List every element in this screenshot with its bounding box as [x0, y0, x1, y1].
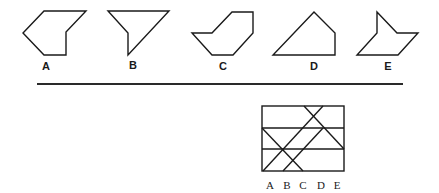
grid-figure: A B C D E	[262, 106, 344, 191]
grid-label-d: D	[317, 179, 325, 191]
grid-labels: A B C D E	[266, 179, 341, 191]
label-e: E	[384, 60, 391, 72]
option-b[interactable]: B	[108, 11, 169, 71]
shape-d	[273, 12, 335, 55]
label-a: A	[42, 60, 50, 72]
label-d: D	[310, 60, 318, 72]
option-c[interactable]: C	[192, 12, 253, 72]
label-b: B	[129, 59, 137, 71]
grid-label-e: E	[334, 179, 341, 191]
option-d[interactable]: D	[273, 12, 335, 72]
answer-options: A B C D E	[23, 11, 418, 72]
grid-border	[262, 106, 344, 171]
option-e[interactable]: E	[357, 12, 418, 72]
shape-b	[108, 11, 169, 55]
puzzle-diagram: A B C D E A B C D E	[0, 0, 439, 193]
shape-e	[357, 12, 418, 55]
grid-label-c: C	[299, 179, 306, 191]
option-a[interactable]: A	[23, 11, 86, 72]
grid-label-b: B	[283, 179, 290, 191]
label-c: C	[219, 60, 227, 72]
shape-c	[192, 12, 253, 55]
grid-label-a: A	[266, 179, 274, 191]
shape-a	[23, 11, 86, 55]
